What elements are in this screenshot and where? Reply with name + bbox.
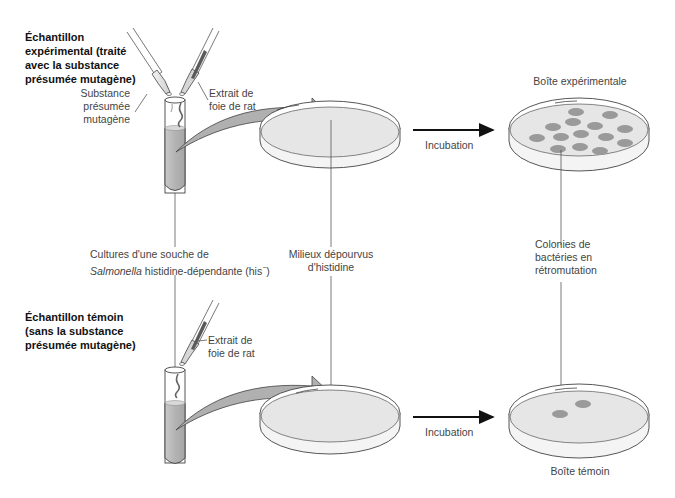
label-line: Cultures d'une souche de bbox=[90, 248, 270, 261]
liver-extract-label-bottom: Extrait de foie de rat bbox=[208, 334, 255, 360]
label-line: foie de rat bbox=[208, 347, 255, 360]
title-line: Échantillon bbox=[25, 30, 136, 44]
label-line: rétromutation bbox=[535, 264, 597, 277]
label-line: Salmonella histidine-dépendante (his−) bbox=[90, 261, 270, 278]
label-text: histidine-dépendante (his bbox=[142, 265, 262, 277]
title-line: Échantillon témoin bbox=[25, 310, 136, 324]
label-text: ) bbox=[266, 265, 270, 277]
petri-dish-control-icon bbox=[509, 384, 649, 458]
substance-label: Substance présumée mutagène bbox=[76, 87, 130, 126]
control-plate-label: Boîte témoin bbox=[520, 465, 640, 478]
leader-line bbox=[198, 82, 208, 100]
label-line: Colonies de bbox=[535, 238, 597, 251]
petri-dish-media-bottom-icon bbox=[260, 385, 400, 454]
label-line: Extrait de bbox=[209, 87, 256, 100]
title-line: expérimental (traité bbox=[25, 44, 136, 58]
petri-dish-experimental-icon bbox=[509, 98, 649, 171]
liver-extract-label-top: Extrait de foie de rat bbox=[209, 87, 256, 113]
leader-line bbox=[198, 340, 207, 341]
colonies-label: Colonies de bactéries en rétromutation bbox=[535, 238, 597, 277]
leader-line bbox=[135, 94, 147, 112]
title-line: avec la substance bbox=[25, 58, 136, 72]
pipette-liver-extract-icon bbox=[180, 28, 220, 96]
label-line: d'histidine bbox=[283, 261, 379, 274]
title-line: (sans la substance bbox=[25, 324, 136, 338]
control-sample-title: Échantillon témoin (sans la substance pr… bbox=[25, 310, 136, 352]
test-tube-experimental-icon bbox=[165, 97, 185, 193]
label-line: bactéries en bbox=[535, 251, 597, 264]
experimental-plate-label: Boîte expérimentale bbox=[520, 75, 640, 88]
cultures-label: Cultures d'une souche de Salmonella hist… bbox=[90, 248, 270, 278]
incubation-label-bottom: Incubation bbox=[425, 426, 473, 439]
experimental-sample-title: Échantillon expérimental (traité avec la… bbox=[25, 30, 136, 86]
label-line: Substance bbox=[76, 87, 130, 100]
petri-dish-media-top-icon bbox=[260, 101, 400, 168]
media-label: Milieux dépourvus d'histidine bbox=[283, 248, 379, 274]
label-line: présumée bbox=[76, 100, 130, 113]
label-line: Extrait de bbox=[208, 334, 255, 347]
label-line: foie de rat bbox=[209, 100, 256, 113]
title-line: présumée mutagène) bbox=[25, 72, 136, 86]
incubation-label-top: Incubation bbox=[425, 139, 473, 152]
salmonella-italic: Salmonella bbox=[90, 265, 142, 277]
label-line: Milieux dépourvus bbox=[283, 248, 379, 261]
label-line: mutagène bbox=[76, 113, 130, 126]
title-line: présumée mutagène) bbox=[25, 338, 136, 352]
test-tube-control-icon bbox=[165, 367, 185, 464]
